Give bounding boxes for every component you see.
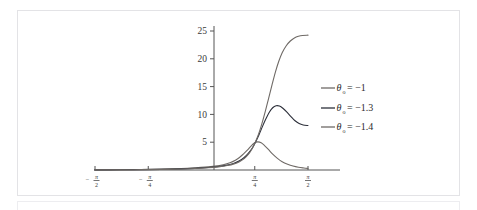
legend-entry-theta0-minus-1point3[interactable]: θo= −1.3 xyxy=(321,102,373,115)
y-tick-label-2: 15 xyxy=(198,82,208,92)
legend-theta-symbol-0: θ xyxy=(337,82,342,93)
x-tick-numerator-1: π xyxy=(148,174,152,180)
legend-value-2: = −1.4 xyxy=(347,121,373,132)
x-tick-numerator-0: π xyxy=(95,174,99,180)
x-tick-sign-1: − xyxy=(139,176,143,183)
x-tick-numerator-3: π xyxy=(306,174,310,180)
legend-entry-theta0-minus-1[interactable]: θo= −1 xyxy=(321,82,366,95)
y-tick-label-1: 10 xyxy=(198,110,208,120)
legend-entry-theta0-minus-1point4[interactable]: θo= −1.4 xyxy=(321,121,373,134)
figure-root: −π2−π4π4π2510152025θo= −1θo= −1.3θo= −1.… xyxy=(0,0,477,210)
y-tick-label-3: 20 xyxy=(198,54,208,64)
legend-theta-symbol-2: θ xyxy=(337,121,342,132)
x-tick-numerator-2: π xyxy=(253,174,257,180)
x-tick-denominator-1: 4 xyxy=(148,182,151,188)
legend-theta-symbol-1: θ xyxy=(337,102,342,113)
chart-canvas: −π2−π4π4π2510152025θo= −1θo= −1.3θo= −1.… xyxy=(0,0,477,210)
y-tick-label-0: 5 xyxy=(202,137,207,147)
legend-theta-subscript-2: o xyxy=(343,128,346,134)
y-tick-label-4: 25 xyxy=(198,26,208,36)
x-tick-sign-0: − xyxy=(86,176,90,183)
legend-value-1: = −1.3 xyxy=(347,102,373,113)
x-tick-denominator-2: 4 xyxy=(253,182,256,188)
x-tick-denominator-3: 2 xyxy=(307,182,310,188)
legend-theta-subscript-0: o xyxy=(343,89,346,95)
x-tick-label-2: π4 xyxy=(252,174,258,188)
x-tick-denominator-0: 2 xyxy=(95,182,98,188)
x-tick-label-1: −π4 xyxy=(139,174,153,188)
legend-value-0: = −1 xyxy=(347,82,366,93)
x-tick-label-3: π2 xyxy=(305,174,311,188)
legend-theta-subscript-1: o xyxy=(343,109,346,115)
x-tick-label-0: −π2 xyxy=(86,174,100,188)
